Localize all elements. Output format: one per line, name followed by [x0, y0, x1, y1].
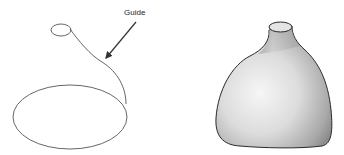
wireframe-group — [13, 22, 136, 149]
top-profile-ellipse — [51, 24, 71, 36]
shaded-vase-group — [216, 22, 332, 148]
guide-label: Guide — [124, 8, 145, 17]
vase-opening — [269, 22, 292, 32]
diagram-svg — [0, 0, 344, 155]
guide-arrow — [106, 22, 136, 58]
guide-curve — [70, 29, 126, 104]
base-profile-ellipse — [13, 85, 127, 149]
diagram-canvas: Guide — [0, 0, 344, 155]
